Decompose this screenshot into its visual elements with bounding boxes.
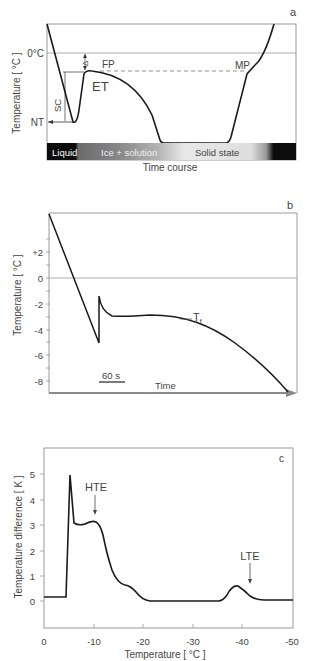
freezing-curve-b	[49, 214, 288, 392]
yticks-c	[40, 474, 44, 601]
xtick-c-40: -40	[235, 636, 249, 647]
xtick-c-10: -10	[87, 636, 101, 647]
xtick-c-20: -20	[136, 636, 150, 647]
ytick-c-2: 2	[30, 546, 35, 557]
phase-bar	[47, 143, 296, 160]
xlabel-b: Time	[155, 380, 176, 391]
frame-a	[47, 24, 296, 160]
panel-letter-b: b	[287, 199, 293, 211]
xlabel-a: Time course	[143, 162, 198, 173]
panel-b: b +2 0 -2 -4 -6 -8 Time	[12, 199, 297, 397]
panel-c: c 5 4 3 2 1 0 0 -10 -20 -30 -40 -50 Temp…	[13, 448, 299, 660]
ytick-c-3: 3	[30, 520, 35, 531]
ytick-b-m2: -2	[35, 299, 43, 310]
xtick-c-0: 0	[41, 636, 46, 647]
panel-a: a 0°C NT SC Δ FP ET MP Liquid Ice + solu…	[11, 6, 297, 173]
sc-label: SC	[52, 99, 63, 112]
lte-arrowhead-icon	[248, 579, 252, 584]
ytick-b-m6: -6	[35, 350, 43, 361]
tf-label: Tf	[193, 311, 202, 325]
phase-solid-state: Solid state	[195, 147, 239, 158]
delta-arrowhead-up-icon	[83, 54, 87, 58]
xtick-c-50: -50	[285, 636, 299, 647]
ytick-c-0: 0	[30, 596, 35, 607]
ylabel-a: Temperature [ °C ]	[11, 52, 22, 133]
panel-letter-a: a	[290, 6, 297, 18]
et-label: ET	[92, 79, 109, 94]
fp-label: FP	[102, 59, 115, 70]
figure: a 0°C NT SC Δ FP ET MP Liquid Ice + solu…	[0, 0, 309, 661]
nt-arrowhead-icon	[48, 120, 53, 124]
ytick-c-4: 4	[30, 495, 35, 506]
ylabel-b: Temperature [ °C ]	[12, 254, 23, 335]
lte-label: LTE	[240, 550, 259, 562]
xtick-c-30: -30	[186, 636, 200, 647]
panel-letter-c: c	[279, 453, 284, 464]
nt-label: NT	[31, 117, 44, 128]
time-arrowhead-icon	[286, 389, 297, 397]
ytick-c-5: 5	[30, 469, 35, 480]
ytick-b-m4: -4	[35, 325, 43, 336]
hte-arrowhead-icon	[93, 510, 97, 515]
ytick-b-2: +2	[32, 247, 43, 258]
hte-label: HTE	[85, 481, 107, 493]
cooling-curve-a	[47, 24, 274, 143]
xticks-c	[94, 624, 242, 628]
zero-label-a: 0°C	[27, 48, 44, 59]
phase-ice-solution: Ice + solution	[101, 147, 157, 158]
mp-label: MP	[235, 60, 250, 71]
ytick-c-1: 1	[30, 571, 35, 582]
xlabel-c: Temperature [ °C ]	[124, 649, 205, 660]
delta-label: Δ	[81, 60, 90, 66]
scale-label-60s: 60 s	[102, 370, 120, 381]
dta-curve-c	[44, 475, 293, 601]
ylabel-c: Temperature difference [ K ]	[13, 475, 24, 598]
ytick-b-0: 0	[38, 273, 43, 284]
phase-liquid: Liquid	[52, 147, 77, 158]
ytick-b-m8: -8	[35, 376, 43, 387]
